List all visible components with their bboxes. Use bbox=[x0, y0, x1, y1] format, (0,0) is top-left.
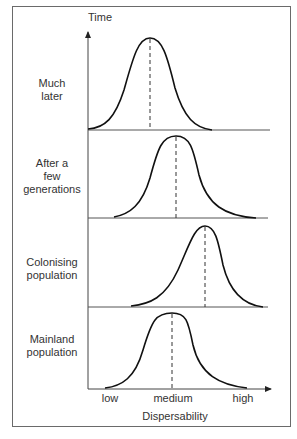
x-tick-low: low bbox=[98, 392, 122, 405]
curve-colonising bbox=[131, 226, 263, 307]
row-label-after-few-generations: After a few generations bbox=[14, 157, 90, 196]
curve-mainland bbox=[105, 313, 247, 388]
row-label-much-later: Much later bbox=[14, 77, 90, 103]
row-label-line: Colonising bbox=[14, 256, 90, 269]
x-axis-label: Dispersability bbox=[140, 410, 210, 423]
y-axis-label: Time bbox=[88, 11, 112, 24]
row-label-line: few bbox=[14, 170, 90, 183]
row-label-mainland: Mainland population bbox=[14, 333, 90, 359]
row-label-line: Mainland bbox=[14, 333, 90, 346]
x-tick-medium: medium bbox=[150, 392, 196, 405]
row-label-line: Much bbox=[14, 77, 90, 90]
x-tick-high: high bbox=[228, 392, 258, 405]
row-label-line: population bbox=[14, 346, 90, 359]
row-label-line: population bbox=[14, 269, 90, 282]
row-label-line: After a bbox=[14, 157, 90, 170]
row-label-line: later bbox=[14, 90, 90, 103]
curve-after-few-generations bbox=[114, 136, 256, 218]
row-label-colonising: Colonising population bbox=[14, 256, 90, 282]
dispersability-diagram bbox=[0, 0, 297, 439]
row-label-line: generations bbox=[14, 183, 90, 196]
